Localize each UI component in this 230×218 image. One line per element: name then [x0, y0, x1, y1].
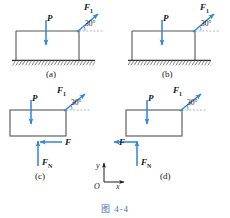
panel-c-label-F1-subscript: 1: [63, 91, 66, 97]
panel-c-label-F1: F1: [57, 86, 66, 97]
panel-a-label-P: P: [47, 14, 53, 23]
figure-canvas: [0, 0, 230, 218]
panel-c-label-F: F: [65, 138, 71, 147]
panel-c-block: [10, 110, 66, 136]
panel-c-label-FN-subscript: N: [48, 163, 52, 169]
panel-b-label-F1: F1: [200, 3, 209, 14]
panel-c-label-FN: FN: [42, 158, 52, 169]
panel-a-label-F1: F1: [84, 3, 93, 14]
figure-caption: 图 4-4: [0, 202, 230, 215]
panel-d-block: [126, 110, 182, 136]
panel-b-label-F1-subscript: 1: [206, 8, 209, 14]
panel-d-label-angle: 30°: [187, 99, 198, 107]
axis-origin-label: O: [94, 183, 100, 191]
panel-a-ground-hatch: [12, 61, 95, 66]
figure-4-4: P F1 30° (a) P F1 30° (b) P F1 30° F FN …: [0, 0, 230, 218]
panel-a-label-angle: 30°: [85, 20, 96, 28]
panel-d-label-FN: FN: [141, 158, 151, 169]
panel-b-ground-hatch: [128, 61, 211, 66]
axis-x-label: x: [116, 183, 120, 191]
panel-d-label-F1: F1: [173, 86, 182, 97]
panel-d-label-F: F: [119, 138, 125, 147]
panel-c-label-P: P: [32, 94, 38, 103]
panel-c-caption: (c): [35, 172, 45, 181]
panel-b-caption: (b): [162, 70, 173, 79]
axis-y-label: y: [96, 162, 100, 170]
panel-a-label-F1-subscript: 1: [90, 8, 93, 14]
panel-d-label-F1-subscript: 1: [179, 91, 182, 97]
panel-a-caption: (a): [46, 70, 56, 79]
panel-c-label-angle: 30°: [71, 99, 82, 107]
coordinate-axes: [104, 163, 124, 182]
panel-d-label-P: P: [148, 94, 154, 103]
panel-b-label-angle: 30°: [201, 20, 212, 28]
panel-d-caption: (d): [160, 172, 171, 181]
panel-d-label-FN-subscript: N: [147, 163, 151, 169]
panel-b-label-P: P: [163, 14, 169, 23]
